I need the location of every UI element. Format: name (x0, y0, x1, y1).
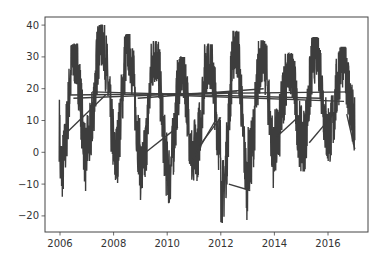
x-tick-label: 2014 (262, 238, 287, 249)
y-tick-label: 10 (26, 115, 39, 126)
series-path (59, 25, 355, 222)
y-tick-label: 0 (33, 147, 39, 158)
x-tick-label: 2012 (208, 238, 233, 249)
line-chart: −20−10010203040 200620082010201220142016 (0, 0, 387, 264)
x-tick-label: 2006 (47, 238, 72, 249)
x-tick-label: 2010 (154, 238, 179, 249)
x-tick-label: 2016 (315, 238, 340, 249)
y-axis: −20−10010203040 (18, 20, 45, 222)
y-tick-label: 40 (26, 20, 39, 31)
y-tick-label: −10 (18, 179, 39, 190)
y-tick-label: 30 (26, 51, 39, 62)
data-series-line (59, 25, 355, 222)
y-tick-label: −20 (18, 210, 39, 221)
x-axis: 200620082010201220142016 (47, 232, 340, 249)
y-tick-label: 20 (26, 83, 39, 94)
x-tick-label: 2008 (101, 238, 126, 249)
